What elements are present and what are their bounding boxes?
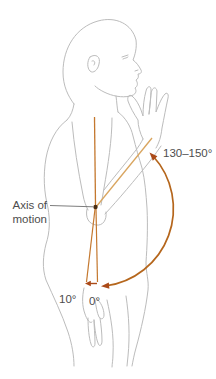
hyperextension-arrowhead xyxy=(85,281,91,286)
forearm-axis-line xyxy=(96,138,152,207)
ear-outline xyxy=(88,55,100,72)
figure-outline-group xyxy=(43,20,168,367)
neutral-angle-label: 0° xyxy=(89,295,100,307)
torso-back-contour xyxy=(43,120,74,366)
upper-arm-back-edge xyxy=(72,122,88,210)
upper-arm-axis-line xyxy=(95,117,96,205)
flexion-range-label: 130–150° xyxy=(163,147,212,159)
arc-arrowhead-bottom xyxy=(101,283,109,289)
leg-lines xyxy=(107,296,129,367)
axis-of-motion-label-line2: motion xyxy=(12,213,47,225)
torso-front-contour xyxy=(118,112,148,366)
neck-lines xyxy=(67,96,118,120)
eye-line xyxy=(122,55,138,71)
neutral-reference-line xyxy=(96,209,98,282)
elbow-range-of-motion-diagram: Axis of motion 130–150° 10° 0° xyxy=(0,0,216,379)
axis-of-motion-dot xyxy=(93,205,97,209)
diagram-canvas: Axis of motion 130–150° 10° 0° xyxy=(0,0,216,379)
axis-of-motion-label-line1: Axis of xyxy=(12,199,47,211)
upper-arm-front-edge xyxy=(101,118,112,205)
hyperextension-angle-label: 10° xyxy=(59,293,76,305)
head-outline xyxy=(63,20,141,104)
